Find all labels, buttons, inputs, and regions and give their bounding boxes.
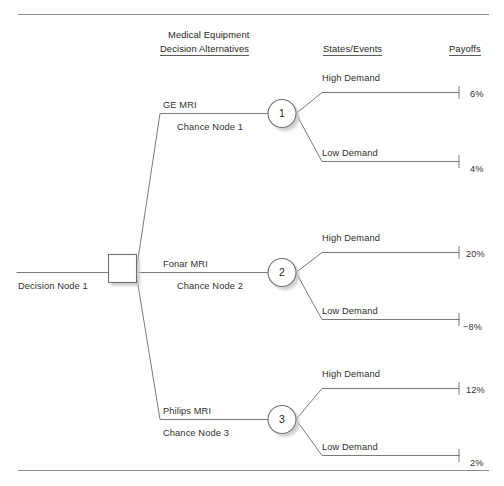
state-label-2-low: Low Demand	[322, 306, 378, 316]
branch-ge-mri-line	[136, 114, 268, 273]
alternative-label-ge-mri: GE MRI	[163, 100, 197, 110]
header-medical-equipment: Medical Equipment	[168, 30, 249, 40]
state-label-2-high: High Demand	[322, 233, 380, 243]
state-label-3-high: High Demand	[322, 369, 380, 379]
payoff-3-low: 2%	[470, 458, 483, 468]
outcome-2-high-line	[296, 253, 459, 273]
header-payoffs: Payoffs	[449, 44, 481, 56]
decision-node-label: Decision Node 1	[18, 281, 88, 291]
chance-node-3-label: Chance Node 3	[163, 428, 229, 438]
outcome-3-high-line	[296, 389, 459, 420]
chance-node-2-label: Chance Node 2	[177, 281, 243, 291]
payoff-1-low: 4%	[470, 164, 483, 174]
header-decision-alternatives: Decision Alternatives	[160, 44, 249, 56]
alternative-label-fonar-mri: Fonar MRI	[163, 259, 208, 269]
decision-tree-page: Medical Equipment Decision Alternatives …	[0, 0, 504, 486]
chance-node-1-number: 1	[272, 107, 292, 119]
alternative-label-philips-mri: Philips MRI	[163, 406, 211, 416]
state-label-1-high: High Demand	[322, 73, 380, 83]
decision-tree-graphic	[0, 0, 504, 486]
branch-philips-mri-line	[136, 273, 268, 420]
decision-node-square	[109, 255, 137, 283]
chance-node-3-number: 3	[272, 413, 292, 425]
state-label-1-low: Low Demand	[322, 148, 378, 158]
payoff-3-high: 12%	[466, 385, 485, 395]
payoff-2-low: −8%	[463, 322, 482, 332]
state-label-3-low: Low Demand	[322, 442, 378, 452]
outcome-1-high-line	[296, 93, 459, 114]
header-states-events: States/Events	[323, 44, 382, 56]
chance-node-1-label: Chance Node 1	[177, 122, 243, 132]
chance-node-2-number: 2	[272, 266, 292, 278]
payoff-2-high: 20%	[466, 249, 485, 259]
payoff-1-high: 6%	[470, 89, 483, 99]
